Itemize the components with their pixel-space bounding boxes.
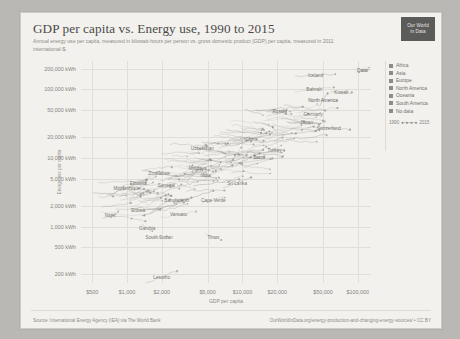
endpoint-dot — [145, 182, 147, 184]
legend-item[interactable]: North America — [389, 86, 439, 91]
y-axis-label: Energy use per capita — [57, 150, 62, 195]
country-trajectory — [232, 124, 264, 130]
y-tick-label: 100,000 kWh — [44, 86, 76, 92]
timeline-end-label: 2015 — [419, 120, 429, 125]
endpoint-dot — [271, 157, 273, 159]
endpoint-dot — [131, 218, 133, 220]
legend-item[interactable]: No data — [389, 109, 439, 114]
endpoint-dot — [181, 183, 183, 185]
legend-swatch-icon — [389, 86, 393, 90]
endpoint-dot — [291, 132, 292, 133]
endpoint-dot — [319, 112, 320, 113]
legend-swatch-icon — [389, 109, 393, 113]
y-tick-label: 500 kWh — [55, 244, 76, 250]
endpoint-dot — [263, 157, 265, 159]
country-trajectory — [208, 163, 240, 176]
source-link[interactable]: OurWorldInData.org/energy-production-and… — [270, 318, 431, 323]
endpoint-dot — [265, 146, 267, 148]
endpoint-dot — [263, 129, 265, 131]
endpoint-dot — [212, 190, 214, 192]
legend-item[interactable]: Europe — [389, 78, 439, 83]
footer-divider — [31, 310, 431, 311]
endpoint-dot — [166, 236, 168, 238]
legend-label: Oceania — [396, 93, 414, 98]
endpoint-dot — [260, 132, 262, 134]
country-trajectory — [187, 189, 225, 191]
endpoint-dot — [245, 154, 247, 156]
legend-item[interactable]: Africa — [389, 63, 439, 68]
x-axis-label: GDP per capita — [209, 298, 243, 304]
legend-label: South America — [396, 101, 428, 106]
endpoint-dot — [291, 113, 293, 115]
y-tick-label: 5,000 kWh — [50, 176, 76, 182]
endpoint-dot — [223, 190, 225, 192]
country-trajectory — [259, 137, 283, 143]
x-tick-label: $5,000 — [199, 289, 216, 295]
y-tick-label: 1,000 kWh — [50, 224, 76, 230]
y-tick-label: 2,000 kWh — [50, 203, 76, 209]
endpoint-dot — [186, 156, 187, 157]
legend-item[interactable]: Oceania — [389, 93, 439, 98]
endpoint-dot — [263, 145, 265, 147]
endpoint-dot — [215, 178, 216, 179]
chart-title: GDP per capita vs. Energy use, 1990 to 2… — [33, 21, 275, 37]
owid-logo[interactable]: Our World in Data — [401, 17, 435, 41]
legend-label: No data — [396, 109, 413, 114]
country-trajectory — [202, 197, 225, 204]
legend-item[interactable]: South America — [389, 101, 439, 106]
plot-area[interactable]: 200,000 kWh100,000 kWh50,000 kWh20,000 k… — [81, 61, 371, 283]
endpoint-dot — [320, 123, 321, 124]
endpoint-dot — [237, 153, 239, 155]
endpoint-dot — [158, 171, 160, 173]
endpoint-dot — [250, 176, 252, 178]
endpoint-dot — [171, 166, 173, 168]
endpoint-dot — [194, 188, 196, 190]
y-tick-label: 200,000 kWh — [44, 66, 76, 72]
endpoint-dot — [315, 117, 317, 119]
country-trajectory — [237, 133, 267, 145]
endpoint-dot — [269, 169, 271, 171]
country-trajectory — [195, 158, 243, 164]
endpoint-dot — [143, 188, 145, 190]
legend-swatch-icon — [389, 101, 393, 105]
endpoint-dot — [241, 163, 243, 165]
endpoint-dot — [263, 140, 265, 142]
endpoint-dot — [155, 176, 157, 178]
x-tick-label: $10,000 — [233, 289, 253, 295]
endpoint-dot — [240, 147, 242, 149]
endpoint-dot — [285, 113, 287, 115]
country-trajectory — [264, 114, 292, 121]
endpoint-dot — [170, 195, 172, 197]
country-trajectory — [205, 233, 221, 240]
endpoint-dot — [336, 107, 338, 109]
country-trajectory — [273, 132, 315, 135]
endpoint-dot — [281, 145, 283, 147]
endpoint-dot — [144, 220, 146, 222]
endpoint-dot — [282, 137, 284, 139]
legend-swatch-icon — [389, 94, 393, 98]
legend-swatch-icon — [389, 64, 393, 68]
endpoint-dot — [161, 200, 162, 201]
owid-logo-line2: in Data — [410, 29, 425, 35]
endpoint-dot — [301, 124, 303, 126]
country-trajectory — [204, 153, 226, 155]
country-trajectory — [120, 177, 156, 190]
legend-item[interactable]: Asia — [389, 71, 439, 76]
endpoint-dot — [242, 176, 244, 178]
country-trajectory — [142, 224, 152, 231]
country-trajectory — [231, 172, 270, 174]
country-trajectory — [161, 211, 196, 217]
endpoint-dot — [157, 208, 159, 210]
country-trajectory — [138, 171, 160, 185]
endpoint-dot — [178, 178, 180, 180]
endpoint-dot — [224, 197, 225, 198]
endpoint-dot — [203, 175, 205, 177]
endpoint-dot — [183, 201, 185, 203]
country-trajectory — [286, 134, 326, 139]
endpoint-dot — [262, 115, 263, 116]
endpoint-dot — [123, 186, 125, 188]
endpoint-dot — [282, 155, 284, 157]
legend: AfricaAsiaEuropeNorth AmericaOceaniaSout… — [389, 63, 439, 125]
endpoint-dot — [318, 129, 320, 131]
endpoint-dot — [317, 103, 319, 105]
